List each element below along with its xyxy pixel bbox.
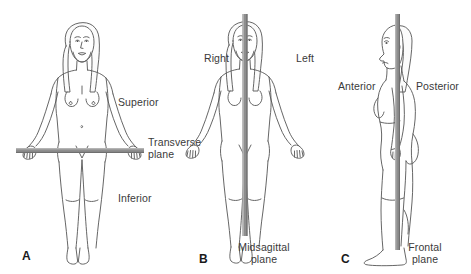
label-inferior: Inferior	[118, 192, 151, 204]
panel-b-body-illustration	[172, 0, 322, 274]
label-anterior: Anterior	[338, 80, 376, 92]
midsagittal-plane-bar	[243, 14, 248, 236]
label-right: Right	[204, 52, 229, 64]
panel-a-body-illustration	[0, 0, 172, 274]
transverse-plane-bar	[16, 148, 144, 153]
label-left: Left	[296, 52, 314, 64]
female-figure-anterior-outline	[23, 23, 141, 265]
frontal-plane-bar	[395, 14, 400, 250]
label-superior: Superior	[118, 96, 159, 108]
label-midsagittal-plane: Midsagittal plane	[218, 241, 310, 265]
panel-letter-c: C	[341, 253, 350, 266]
panel-c-frontal-plane: Anterior Posterior Frontal plane C	[322, 0, 471, 274]
female-figure-lateral-outline	[364, 25, 418, 266]
panel-a-transverse-plane: Superior Transverse plane Inferior A	[0, 0, 172, 274]
label-posterior: Posterior	[416, 80, 459, 92]
panel-letter-b: B	[199, 253, 208, 266]
anatomical-planes-figure: Superior Transverse plane Inferior A	[0, 0, 471, 274]
panel-b-midsagittal-plane: Right Left Midsagittal plane B	[172, 0, 322, 274]
panel-c-body-illustration	[322, 0, 471, 274]
label-frontal-plane: Frontal plane	[388, 241, 462, 265]
panel-letter-a: A	[22, 250, 31, 263]
